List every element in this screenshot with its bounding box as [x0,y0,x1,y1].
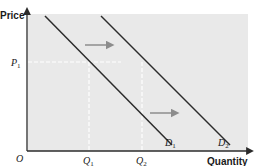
x-axis-label: Quantity [207,156,248,166]
y-axis-label: Price [0,10,25,21]
q2-label: Q2 [136,155,147,166]
demand-shift-diagram: Price Quantity O P1 Q1 Q2 D1 D2 [0,0,255,166]
p1-label: P1 [10,57,21,70]
origin-label: O [16,153,23,164]
q1-label: Q1 [83,155,94,166]
